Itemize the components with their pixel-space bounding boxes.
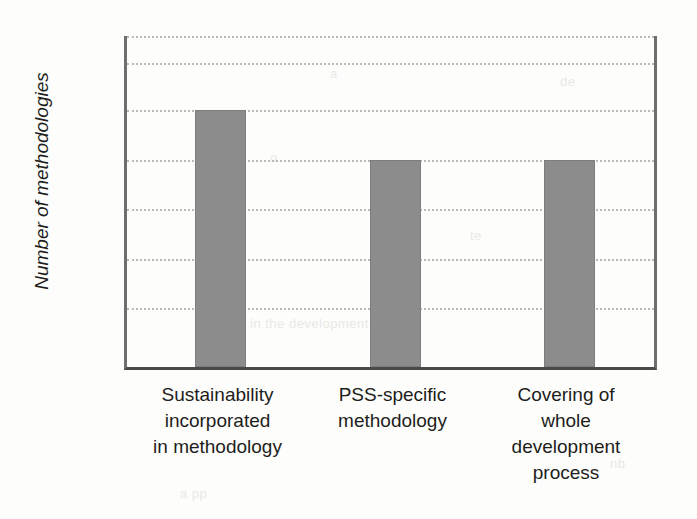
bar[interactable] xyxy=(370,160,421,367)
category-label-line: incorporated xyxy=(123,408,313,434)
gridline xyxy=(127,63,654,65)
gridline xyxy=(127,36,654,38)
bar-chart-figure: adeotelain the development processnba pp… xyxy=(0,0,697,519)
category-label-line: whole xyxy=(471,408,661,434)
x-axis-category-label: Sustainabilityincorporatedin methodology xyxy=(123,382,313,460)
category-label-line: in methodology xyxy=(123,434,313,460)
y-axis-title: Number of methodologies xyxy=(31,56,53,306)
plot-area xyxy=(124,36,657,370)
bar[interactable] xyxy=(544,160,595,367)
category-label-line: Sustainability xyxy=(123,382,313,408)
scan-artifact: a pp xyxy=(180,486,207,501)
bar[interactable] xyxy=(195,110,246,367)
category-label-line: process xyxy=(471,460,661,486)
x-axis-category-label: Covering ofwholedevelopmentprocess xyxy=(471,382,661,486)
x-axis-category-label: PSS-specificmethodology xyxy=(298,382,488,434)
category-label-line: PSS-specific xyxy=(298,382,488,408)
category-label-line: development xyxy=(471,434,661,460)
category-label-line: methodology xyxy=(298,408,488,434)
category-label-line: Covering of xyxy=(471,382,661,408)
